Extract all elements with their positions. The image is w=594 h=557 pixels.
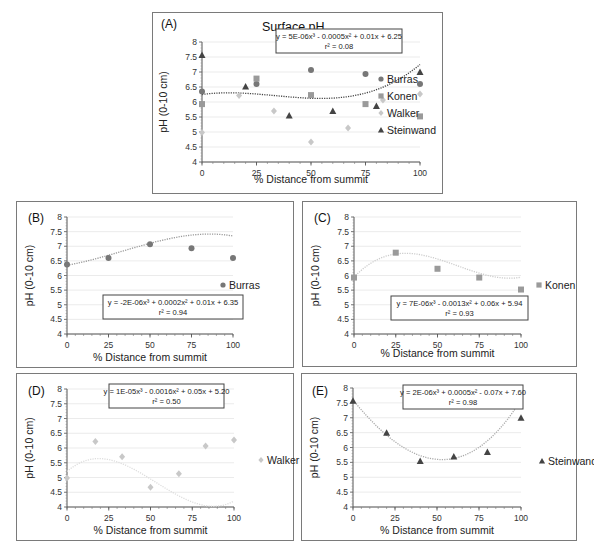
y-axis-title: pH (0-10 cm): [157, 71, 169, 132]
diamond-marker-icon: [64, 475, 70, 482]
x-axis-ticks: 0255075100: [65, 507, 242, 523]
legend-label: Steinwand: [387, 124, 436, 136]
diamond-marker-icon: [199, 129, 205, 136]
diamond-marker-icon: [345, 125, 351, 132]
y-tick-label: 4.5: [185, 142, 197, 152]
chart-plot: 44.555.566.577.580255075100% Distance fr…: [153, 13, 444, 195]
y-tick-label: 6: [344, 271, 349, 281]
equation-box: y = 7E-06x³ - 0.0013x² + 0.06x + 5.94r² …: [391, 296, 528, 320]
y-tick-label: 5.5: [337, 285, 349, 295]
x-tick-label: 75: [188, 513, 198, 523]
y-tick-label: 4: [57, 329, 62, 339]
circle-marker-icon: [189, 245, 195, 251]
circle-marker-icon: [363, 71, 369, 77]
legend-item-konen: Konen: [536, 279, 575, 291]
triangle-marker-icon: [378, 127, 384, 133]
y-tick-label: 5.5: [50, 285, 62, 295]
y-tick-label: 4.5: [337, 314, 349, 324]
circle-marker-icon: [199, 89, 205, 95]
circle-marker-icon: [308, 67, 314, 73]
equation-box: y = 2E-06x³ + 0.0005x² - 0.07x + 7.60r² …: [400, 385, 526, 409]
panel-b-burras: (B) 44.555.566.577.580255075100% Distanc…: [16, 201, 294, 368]
y-tick-label: 4.5: [50, 314, 62, 324]
legend-label: Konen: [545, 279, 576, 291]
y-tick-label: 7.5: [50, 227, 62, 237]
y-tick-label: 4: [192, 157, 197, 167]
square-marker-icon: [351, 275, 357, 281]
trendline: [354, 253, 521, 278]
circle-marker-icon: [378, 76, 383, 81]
y-tick-label: 7.5: [50, 399, 62, 409]
circle-marker-icon: [147, 241, 153, 247]
x-tick-label: 100: [226, 340, 240, 350]
trendline: [67, 459, 234, 507]
y-tick-label: 6.5: [185, 82, 197, 92]
x-tick-label: 50: [432, 513, 442, 523]
chart-plot: 44.555.566.577.580255075100% Distance fr…: [303, 202, 578, 368]
x-tick-label: 25: [104, 513, 114, 523]
diamond-marker-icon: [119, 453, 125, 460]
y-axis-title: pH (0-10 cm): [309, 245, 321, 306]
legend: BurrasKonenWalkerSteinwand: [378, 73, 436, 136]
square-marker-icon: [378, 93, 383, 98]
x-tick-label: 75: [474, 513, 484, 523]
x-axis-title: % Distance from summit: [94, 524, 208, 536]
square-marker-icon: [199, 101, 205, 107]
circle-marker-icon: [230, 255, 236, 261]
legend-item-walker: Walker: [258, 454, 299, 466]
x-tick-label: 0: [65, 340, 70, 350]
x-tick-label: 100: [413, 168, 427, 178]
legend-label: Steinwand: [548, 455, 594, 467]
x-tick-label: 25: [390, 513, 400, 523]
series-walker: [64, 437, 237, 491]
legend-item-steinwand: Steinwand: [539, 455, 594, 467]
circle-marker-icon: [254, 81, 260, 87]
diamond-marker-icon: [231, 437, 237, 444]
diamond-marker-icon: [92, 438, 98, 445]
triangle-marker-icon: [484, 448, 491, 455]
y-tick-label: 5: [192, 127, 197, 137]
chart-plot: 44.555.566.577.580255075100% Distance fr…: [302, 374, 578, 542]
diamond-marker-icon: [148, 484, 154, 491]
y-tick-label: 4.5: [50, 487, 62, 497]
legend-label: Walker: [387, 107, 420, 119]
x-tick-label: 0: [352, 340, 357, 350]
square-marker-icon: [435, 266, 441, 272]
y-tick-label: 7: [343, 413, 348, 423]
legend: Steinwand: [539, 455, 594, 467]
trend-equation: y = -2E-06x³ + 0.0002x² + 0.01x + 6.35: [108, 298, 238, 307]
y-tick-label: 5: [343, 472, 348, 482]
series-burras: [64, 241, 236, 267]
panel-c-konen: (C) 44.555.566.577.580255075100% Distanc…: [302, 201, 577, 367]
x-tick-label: 25: [104, 340, 114, 350]
y-tick-label: 7: [57, 414, 62, 424]
legend-label: Burras: [387, 73, 418, 85]
y-tick-label: 7.5: [185, 52, 197, 62]
triangle-marker-icon: [329, 108, 336, 115]
panel-d-walker: (D) 44.555.566.577.580255075100% Distanc…: [16, 373, 294, 541]
y-tick-label: 6.5: [50, 428, 62, 438]
legend: Burras: [220, 279, 260, 291]
legend-label: Walker: [267, 454, 300, 466]
legend-label: Burras: [229, 279, 260, 291]
triangle-marker-icon: [450, 453, 457, 460]
y-tick-label: 7.5: [337, 227, 349, 237]
equation-box: y = 1E-05x³ - 0.0016x² + 0.05x + 5.20r² …: [103, 384, 229, 408]
y-tick-label: 5: [57, 473, 62, 483]
y-tick-label: 6.5: [336, 428, 348, 438]
square-marker-icon: [393, 250, 399, 256]
x-tick-label: 75: [187, 340, 197, 350]
y-tick-label: 7: [192, 67, 197, 77]
x-axis-ticks: 0255075100: [65, 334, 241, 350]
y-tick-label: 5: [344, 300, 349, 310]
y-tick-label: 7: [344, 241, 349, 251]
legend-item-burras: Burras: [220, 279, 260, 291]
square-marker-icon: [254, 76, 260, 82]
x-axis-title: % Distance from summit: [380, 524, 494, 536]
y-axis-ticks: 44.555.566.577.58: [50, 212, 67, 339]
y-tick-label: 4: [343, 502, 348, 512]
trend-equation: y = 1E-05x³ - 0.0016x² + 0.05x + 5.20: [103, 387, 229, 396]
diamond-marker-icon: [176, 470, 182, 477]
diamond-marker-icon: [258, 457, 263, 463]
y-axis-ticks: 44.555.566.577.58: [50, 384, 67, 512]
